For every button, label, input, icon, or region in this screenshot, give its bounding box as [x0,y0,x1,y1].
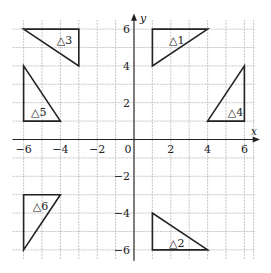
coordinate-plane: −6−4−20246−6−4−2246 △1△2△3△4△5△6 x y [0,0,271,273]
x-axis-label: x [251,125,258,138]
x-tick-label: −4 [52,143,68,156]
y-axis-arrow-icon [131,13,137,20]
axes [13,13,260,260]
y-tick-label: 2 [123,97,130,110]
triangle-label: △2 [169,237,184,250]
y-tick-label: −2 [114,170,130,183]
x-tick-label: 0 [125,143,132,156]
y-axis-label: y [139,12,147,25]
y-tick-label: −6 [114,244,130,257]
x-tick-label: 2 [167,143,174,156]
triangle-label: △3 [57,34,72,47]
triangle-label: △1 [169,34,184,47]
triangle-label: △4 [228,106,243,119]
x-tick-label: 4 [204,143,211,156]
x-tick-label: 6 [241,143,248,156]
triangle: △6 [24,195,61,250]
y-tick-label: 6 [123,23,130,36]
triangle-label: △5 [31,106,46,119]
y-tick-label: 4 [123,60,130,73]
y-tick-label: −4 [114,207,130,220]
x-tick-label: −6 [15,143,31,156]
triangle-label: △6 [33,200,48,213]
x-tick-label: −2 [89,143,105,156]
